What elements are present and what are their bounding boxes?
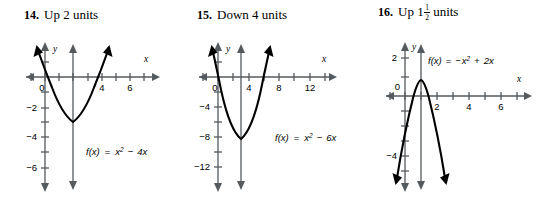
x-tick-label-16-2: 2 bbox=[434, 101, 439, 112]
y-tick-label-14-neg2: −2 bbox=[26, 102, 37, 113]
y-tick-label-16-neg4: −4 bbox=[386, 150, 397, 161]
function-label-15: f(x)=x2−6x bbox=[275, 132, 338, 144]
x-tick-label-15-8: 8 bbox=[276, 82, 281, 93]
fn-exp-15: 2 bbox=[308, 132, 313, 139]
x-tick-label-14-4: 4 bbox=[99, 82, 104, 93]
x-axis-label-16: x bbox=[516, 74, 522, 84]
y-axis-label-16: y bbox=[411, 42, 417, 52]
x-tick-label-14-0: 0 bbox=[39, 82, 44, 93]
fn-equals-16: = bbox=[446, 55, 452, 66]
exercise-panel-16: 16.Up 112 units bbox=[366, 0, 549, 202]
x-tick-label-14-6: 6 bbox=[127, 82, 132, 93]
y-tick-label-15-neg8: −8 bbox=[199, 131, 210, 142]
exercise-page: 14.Up 2 units bbox=[0, 0, 549, 202]
fn-op-14: − bbox=[128, 146, 134, 157]
x-tick-label-16-4: 4 bbox=[466, 101, 471, 112]
fn-name-16: f(x) bbox=[428, 55, 442, 66]
x-tick-label-15-12: 12 bbox=[305, 82, 316, 93]
fn-name-15: f(x) bbox=[275, 132, 289, 143]
fn-term-16: 2x bbox=[483, 55, 495, 66]
function-label-16: f(x)=−x2+2x bbox=[428, 55, 495, 67]
axis-of-symmetry-15 bbox=[237, 44, 245, 190]
fn-exp-14: 2 bbox=[119, 146, 124, 153]
graph-15: x y 0 4 8 12 −4 −8 −12 f(x)=x2−6x bbox=[183, 0, 366, 202]
y-axis-label-14: y bbox=[52, 44, 58, 54]
x-axis-16 bbox=[386, 92, 532, 100]
fn-sign-16: − bbox=[455, 55, 461, 66]
fn-op-15: − bbox=[317, 132, 323, 143]
y-tick-label-14-neg6: −6 bbox=[26, 162, 37, 173]
fn-exp-16: 2 bbox=[466, 55, 471, 62]
graph-14: x y 0 4 6 −2 −4 −6 f(x)=x2−4x bbox=[0, 0, 183, 202]
exercise-panel-15: 15.Down 4 units bbox=[183, 0, 366, 202]
y-tick-label-15-neg12: −12 bbox=[194, 161, 210, 172]
origin-label-16: 0 bbox=[395, 81, 400, 92]
exercise-panel-14: 14.Up 2 units bbox=[0, 0, 183, 202]
y-tick-label-14-neg4: −4 bbox=[26, 131, 37, 142]
x-tick-label-15-0: 0 bbox=[212, 82, 217, 93]
y-tick-label-15-neg4: −4 bbox=[199, 101, 210, 112]
y-tick-label-16-2: 2 bbox=[392, 52, 397, 63]
x-tick-label-15-4: 4 bbox=[246, 82, 251, 93]
fn-term-15: 6x bbox=[326, 132, 337, 143]
axis-of-symmetry-14 bbox=[69, 44, 77, 190]
fn-op-16: + bbox=[474, 55, 480, 66]
axis-of-symmetry-16 bbox=[417, 44, 425, 190]
fn-equals-15: = bbox=[294, 132, 300, 143]
fn-term-14: 4x bbox=[137, 146, 148, 157]
graph-16: x y 2 0 2 4 6 −4 f(x)=−x2+2x bbox=[366, 0, 549, 202]
x-axis-label-14: x bbox=[143, 54, 149, 64]
x-tick-label-16-6: 6 bbox=[498, 101, 503, 112]
fn-name-14: f(x) bbox=[86, 146, 100, 157]
fn-equals-14: = bbox=[105, 146, 111, 157]
x-axis-label-15: x bbox=[321, 54, 327, 64]
y-axis-label-15: y bbox=[225, 44, 231, 54]
function-label-14: f(x)=x2−4x bbox=[86, 146, 149, 158]
